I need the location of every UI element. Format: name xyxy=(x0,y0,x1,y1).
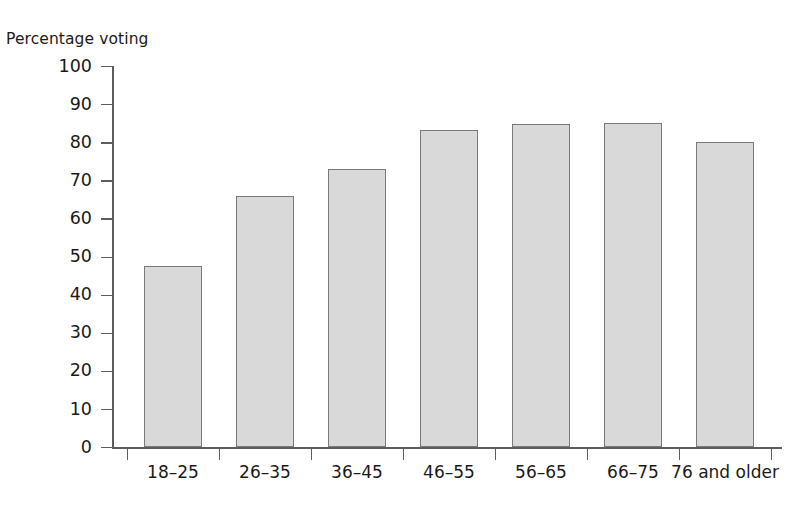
y-axis-tick: 50 xyxy=(101,257,112,258)
y-axis-tick-label: 60 xyxy=(70,210,92,228)
bar xyxy=(420,130,478,447)
x-axis-tick xyxy=(587,447,588,460)
y-axis-line xyxy=(112,66,114,447)
bar-chart-figure: Percentage voting 0102030405060708090100… xyxy=(0,0,795,511)
y-axis-tick: 90 xyxy=(101,104,112,105)
bar xyxy=(512,124,570,447)
y-axis-tick: 100 xyxy=(101,66,112,67)
x-axis-tick xyxy=(219,447,220,460)
bar xyxy=(328,169,386,447)
x-axis-label: 76 and older xyxy=(650,464,795,481)
y-axis-tick: 60 xyxy=(101,218,112,219)
y-axis-tick: 0 xyxy=(101,447,112,448)
x-axis-tick xyxy=(771,447,772,460)
y-axis-tick-label: 80 xyxy=(70,134,92,152)
bar xyxy=(604,123,662,447)
y-axis-tick-label: 0 xyxy=(81,439,92,457)
x-axis-tick xyxy=(495,447,496,460)
y-axis-title: Percentage voting xyxy=(6,30,149,48)
y-axis-tick: 70 xyxy=(101,180,112,181)
y-axis-tick: 10 xyxy=(101,409,112,410)
y-axis-tick: 20 xyxy=(101,371,112,372)
bar xyxy=(696,142,754,447)
y-axis-tick-label: 10 xyxy=(70,401,92,419)
y-axis-tick-label: 40 xyxy=(70,287,92,305)
x-axis-tick xyxy=(403,447,404,460)
y-axis-tick-label: 70 xyxy=(70,172,92,190)
x-axis-tick xyxy=(311,447,312,460)
y-axis-tick-label: 100 xyxy=(59,58,92,76)
y-axis-tick: 30 xyxy=(101,333,112,334)
y-axis-tick-label: 50 xyxy=(70,248,92,266)
x-axis-tick xyxy=(127,447,128,460)
y-axis-tick-label: 20 xyxy=(70,363,92,381)
bar xyxy=(236,196,294,447)
y-axis-tick-label: 30 xyxy=(70,325,92,343)
bar xyxy=(144,266,202,447)
x-axis-line xyxy=(112,447,782,449)
y-axis-tick: 80 xyxy=(101,142,112,143)
plot-area: 0102030405060708090100 xyxy=(112,66,782,447)
y-axis-tick-label: 90 xyxy=(70,96,92,114)
x-axis-tick xyxy=(679,447,680,460)
y-axis-tick: 40 xyxy=(101,295,112,296)
